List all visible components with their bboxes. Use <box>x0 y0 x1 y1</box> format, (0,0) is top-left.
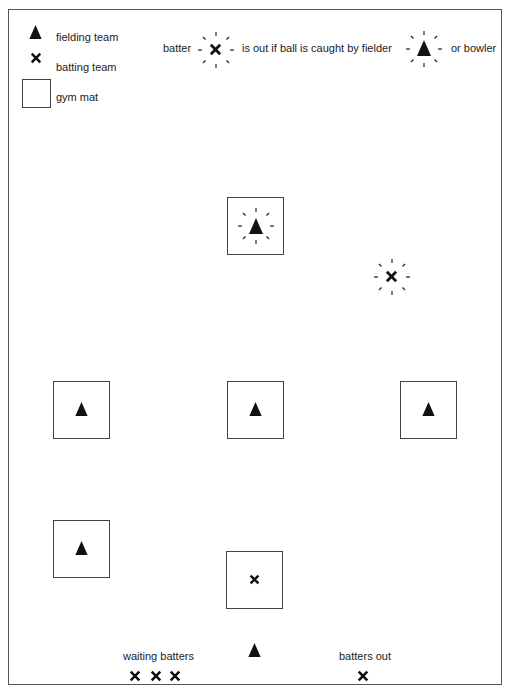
legend-label-batting: batting team <box>56 61 117 74</box>
triangle-icon <box>249 402 262 416</box>
mat-middle-right <box>400 381 457 439</box>
mat-bottom-center <box>226 551 283 609</box>
cross-icon <box>385 270 398 283</box>
square-icon <box>22 79 51 108</box>
cross-icon <box>150 670 162 682</box>
mat-middle-center <box>227 381 284 439</box>
mat-lower-left <box>53 520 110 578</box>
cross-icon <box>357 670 369 682</box>
triangle-icon <box>422 402 435 416</box>
triangle-icon <box>75 402 88 416</box>
legend-label-mat: gym mat <box>56 91 98 104</box>
cross-icon <box>129 670 141 682</box>
rule-middle-text: is out if ball is caught by fielder <box>242 42 392 55</box>
waiting-batters-label: waiting batters <box>123 650 194 663</box>
bowler-triangle-icon <box>248 643 261 657</box>
cross-icon <box>209 43 222 56</box>
rule-end-text: or bowler <box>451 42 496 55</box>
triangle-icon <box>29 25 42 39</box>
mat-middle-left <box>53 381 110 439</box>
cross-icon <box>30 52 42 64</box>
legend-label-fielding: fielding team <box>56 31 118 44</box>
mat-top-center <box>227 197 284 255</box>
rule-batter-label: batter <box>163 42 191 55</box>
triangle-icon <box>249 218 263 234</box>
batters-out-label: batters out <box>339 650 391 663</box>
triangle-icon <box>417 40 431 56</box>
cross-icon <box>249 574 260 585</box>
triangle-icon <box>75 541 88 555</box>
cross-icon <box>169 670 181 682</box>
